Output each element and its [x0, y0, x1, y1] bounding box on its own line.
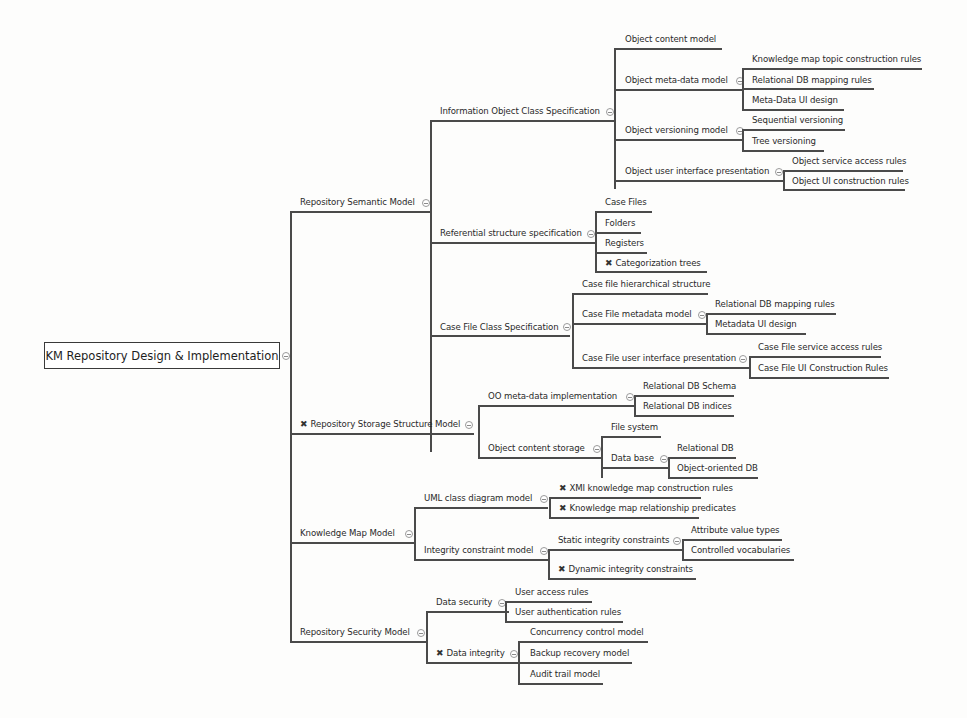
topic-uml-class-diagram-model[interactable]: UML class diagram model	[424, 493, 532, 504]
topic-knowledge-map-model[interactable]: Knowledge Map Model	[300, 528, 395, 539]
topic-user-authentication-rules[interactable]: User authentication rules	[515, 607, 621, 618]
collapse-icon[interactable]	[405, 530, 413, 538]
collapse-icon[interactable]	[660, 455, 668, 463]
connector	[549, 497, 701, 499]
topic-file-system[interactable]: File system	[611, 422, 658, 433]
connector	[430, 120, 614, 122]
topic-concurrency-control-model[interactable]: Concurrency control model	[530, 627, 644, 638]
topic-relational-db[interactable]: Relational DB	[677, 443, 734, 454]
connector	[595, 211, 597, 271]
topic-case-files[interactable]: Case Files	[605, 197, 647, 208]
connector	[742, 129, 744, 150]
topic-integrity-constraint-model[interactable]: Integrity constraint model	[424, 545, 533, 556]
topic-object-oriented-db[interactable]: Object-oriented DB	[677, 463, 758, 474]
collapse-icon[interactable]	[282, 352, 290, 360]
collapse-icon[interactable]	[417, 629, 425, 637]
topic-km-relationship-predicates[interactable]: ✖Knowledge map relationship predicates	[559, 503, 736, 514]
topic-dynamic-integrity-constraints[interactable]: ✖Dynamic integrity constraints	[558, 564, 693, 575]
topic-repository-semantic-model[interactable]: Repository Semantic Model	[300, 197, 415, 208]
collapse-icon[interactable]	[626, 393, 634, 401]
topic-information-object-class-spec[interactable]: Information Object Class Specification	[440, 106, 600, 117]
collapse-icon[interactable]	[510, 650, 518, 658]
topic-object-ui-construction-rules[interactable]: Object UI construction rules	[792, 176, 909, 187]
collapse-icon[interactable]	[775, 168, 783, 176]
topic-metadata-ui-design[interactable]: Metadata UI design	[715, 319, 797, 330]
topic-km-topic-construction-rules[interactable]: Knowledge map topic construction rules	[752, 54, 921, 65]
connector	[430, 335, 570, 337]
connector	[706, 313, 836, 315]
topic-registers[interactable]: Registers	[605, 238, 644, 249]
connector	[414, 559, 548, 561]
collapse-icon[interactable]	[540, 495, 548, 503]
collapse-icon[interactable]	[465, 421, 473, 429]
topic-case-file-ui-presentation[interactable]: Case File user interface presentation	[582, 353, 736, 364]
connector	[742, 109, 844, 111]
topic-folders[interactable]: Folders	[605, 218, 635, 229]
topic-object-meta-data-model[interactable]: Object meta-data model	[625, 75, 728, 86]
connector	[595, 252, 647, 254]
collapse-icon[interactable]	[593, 445, 601, 453]
connector	[682, 539, 782, 541]
connector	[706, 333, 806, 335]
topic-repository-security-model[interactable]: Repository Security Model	[300, 627, 410, 638]
mind-map-canvas: KM Repository Design & Implementation Re…	[0, 0, 967, 718]
collapse-icon[interactable]	[673, 537, 681, 545]
connector	[595, 271, 707, 273]
topic-relational-db-indices[interactable]: Relational DB indices	[643, 401, 732, 412]
topic-data-security[interactable]: Data security	[436, 597, 492, 608]
connector	[290, 211, 292, 642]
topic-referential-structure-spec[interactable]: Referential structure specification	[440, 228, 582, 239]
topic-sequential-versioning[interactable]: Sequential versioning	[752, 115, 843, 126]
topic-object-ui-presentation[interactable]: Object user interface presentation	[625, 166, 769, 177]
collapse-icon[interactable]	[739, 355, 747, 363]
root-topic[interactable]: KM Repository Design & Implementation	[44, 342, 280, 369]
connector	[668, 477, 758, 479]
topic-tree-versioning[interactable]: Tree versioning	[752, 136, 816, 147]
topic-meta-data-ui-design[interactable]: Meta-Data UI design	[752, 95, 838, 106]
topic-xmi-km-construction-rules[interactable]: ✖XMI knowledge map construction rules	[559, 483, 733, 494]
connector	[742, 68, 922, 70]
cross-icon: ✖	[605, 258, 612, 268]
topic-data-integrity[interactable]: ✖Data integrity	[436, 648, 505, 659]
topic-categorization-trees[interactable]: ✖Categorization trees	[605, 258, 701, 269]
collapse-icon[interactable]	[422, 199, 430, 207]
topic-relational-db-mapping-rules-2[interactable]: Relational DB mapping rules	[715, 299, 835, 310]
connector	[290, 211, 430, 213]
collapse-icon[interactable]	[587, 230, 595, 238]
connector	[414, 507, 416, 559]
collapse-icon[interactable]	[540, 547, 548, 555]
connector	[518, 641, 648, 643]
collapse-icon[interactable]	[698, 311, 706, 319]
topic-object-versioning-model[interactable]: Object versioning model	[625, 125, 728, 136]
topic-data-base[interactable]: Data base	[611, 453, 654, 464]
topic-backup-recovery-model[interactable]: Backup recovery model	[530, 648, 629, 659]
topic-oo-meta-data-implementation[interactable]: OO meta-data implementation	[488, 391, 617, 402]
connector	[783, 189, 905, 191]
connector	[290, 641, 426, 643]
topic-repository-storage-structure-model[interactable]: ✖Repository Storage Structure Model	[300, 419, 460, 430]
topic-object-service-access-rules[interactable]: Object service access rules	[792, 156, 906, 167]
collapse-icon[interactable]	[563, 323, 571, 331]
connector	[572, 323, 707, 325]
cross-icon: ✖	[559, 503, 566, 513]
topic-relational-db-mapping-rules[interactable]: Relational DB mapping rules	[752, 75, 872, 86]
topic-object-content-storage[interactable]: Object content storage	[488, 443, 585, 454]
topic-case-file-ui-construction-rules[interactable]: Case File UI Construction Rules	[758, 363, 888, 374]
connector	[572, 293, 708, 295]
collapse-icon[interactable]	[606, 108, 614, 116]
connector	[614, 139, 744, 141]
connector	[614, 48, 616, 189]
connector	[572, 367, 750, 369]
topic-case-file-hierarchical-structure[interactable]: Case file hierarchical structure	[582, 279, 710, 290]
topic-case-file-metadata-model[interactable]: Case File metadata model	[582, 309, 692, 320]
topic-object-content-model[interactable]: Object content model	[625, 34, 716, 45]
topic-user-access-rules[interactable]: User access rules	[515, 587, 588, 598]
topic-case-file-service-access-rules[interactable]: Case File service access rules	[758, 342, 882, 353]
topic-audit-trail-model[interactable]: Audit trail model	[530, 669, 600, 680]
topic-relational-db-schema[interactable]: Relational DB Schema	[643, 381, 736, 392]
topic-static-integrity-constraints[interactable]: Static integrity constraints	[558, 535, 669, 546]
topic-controlled-vocabularies[interactable]: Controlled vocabularies	[691, 545, 790, 556]
topic-attribute-value-types[interactable]: Attribute value types	[691, 525, 779, 536]
connector	[426, 662, 518, 664]
topic-case-file-class-spec[interactable]: Case File Class Specification	[440, 322, 559, 333]
